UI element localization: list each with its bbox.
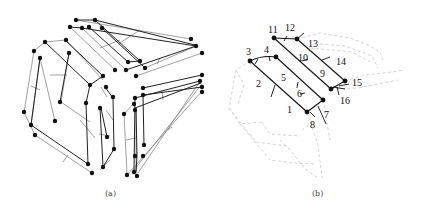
panel-b: 1 2 3 4 5 6 7 8 9 10 11 12 13 14 15 16 (… [212,0,424,212]
caption-a: (a) [105,189,116,198]
edge-label-3: 3 [246,46,251,57]
edge-label-7: 7 [324,109,329,120]
edge-labels: 1 2 3 4 5 6 7 8 9 10 11 12 13 14 15 16 [246,22,362,130]
edge-label-9: 9 [320,68,325,79]
edge-label-11: 11 [268,24,278,35]
panel-a: (a) [0,0,212,212]
edge-label-6: 6 [297,88,302,99]
graph-nodes-b [248,36,348,115]
edge-label-16: 16 [340,95,350,106]
edge-label-4: 4 [264,44,269,55]
edge-label-2: 2 [256,78,261,89]
edge-label-15: 15 [352,77,362,88]
edge-label-1: 1 [287,104,292,115]
wireframe-graph-a [0,0,212,212]
wireframe-graph-b: 1 2 3 4 5 6 7 8 9 10 11 12 13 14 15 16 [212,0,424,212]
edge-label-13: 13 [308,38,318,49]
edge-label-8: 8 [310,119,315,130]
edge-label-5: 5 [281,72,286,83]
edge-label-14: 14 [336,56,346,67]
edge-label-12: 12 [285,22,295,33]
edge-label-10: 10 [298,52,308,63]
caption-b: (b) [312,189,323,198]
